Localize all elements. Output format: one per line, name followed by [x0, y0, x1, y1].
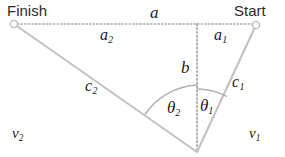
- theta2-sub: 2: [175, 107, 180, 118]
- start-label: Start: [234, 3, 266, 18]
- medium-v2-base: v: [12, 125, 19, 141]
- segment-a1-label: a1: [214, 27, 227, 45]
- segment-c1-label: c1: [232, 74, 244, 92]
- segment-a2-label: a2: [100, 27, 113, 45]
- segment-a1-sub: 1: [222, 34, 227, 45]
- segment-a2-sub: 2: [108, 34, 113, 45]
- medium-v1-sub: 1: [256, 133, 261, 143]
- finish-label: Finish: [7, 3, 47, 18]
- medium-v2-label: v2: [12, 126, 23, 143]
- segment-a1-base: a: [214, 26, 222, 43]
- diagram-root: Finish Start a a2 a1 b c2 c1 θ2 θ1 v2 v1: [0, 0, 285, 157]
- segment-a2-base: a: [100, 26, 108, 43]
- theta2-label: θ2: [167, 99, 180, 118]
- segment-c2-sub: 2: [92, 85, 97, 96]
- segment-c2-label: c2: [85, 78, 97, 96]
- theta1-sub: 1: [208, 105, 213, 116]
- segment-b-label: b: [181, 59, 190, 76]
- segment-c1-sub: 1: [239, 81, 244, 92]
- finish-point-marker: [10, 20, 17, 27]
- start-point-marker: [252, 21, 259, 28]
- segment-a-label: a: [150, 4, 159, 21]
- theta1-label: θ1: [200, 97, 213, 116]
- medium-v1-base: v: [249, 125, 256, 141]
- medium-v1-label: v1: [249, 126, 260, 143]
- medium-v2-sub: 2: [19, 133, 24, 143]
